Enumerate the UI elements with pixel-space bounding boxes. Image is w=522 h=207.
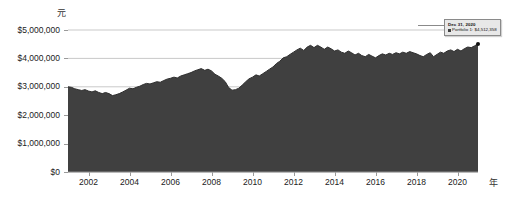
y-axis-tick-label: $2,000,000 (0, 111, 60, 120)
portfolio-area-chart: 元 年 $5,000,000$4,000,000$3,000,000$2,000… (0, 0, 522, 207)
x-axis-tick-mark (376, 172, 377, 176)
x-axis-tick-label: 2020 (438, 178, 478, 187)
x-axis-tick-label: 2008 (192, 178, 232, 187)
x-axis-unit-label: 年 (489, 178, 498, 189)
x-axis-tick-mark (335, 172, 336, 176)
y-axis-tick-label: $5,000,000 (0, 26, 60, 35)
tooltip-leader-line (418, 25, 445, 26)
x-axis-tick-label: 2014 (315, 178, 355, 187)
x-axis-tick-label: 2016 (356, 178, 396, 187)
x-axis-tick-label: 2006 (151, 178, 191, 187)
x-axis-tick-label: 2012 (274, 178, 314, 187)
x-axis-tick-mark (294, 172, 295, 176)
tooltip-series-swatch (448, 29, 451, 32)
x-axis-tick-mark (417, 172, 418, 176)
y-axis-tick-label: $3,000,000 (0, 82, 60, 91)
chart-svg (68, 30, 478, 172)
y-axis-tick-label: $0 (0, 168, 60, 177)
x-axis-tick-label: 2002 (69, 178, 109, 187)
tooltip-point-marker (476, 42, 480, 46)
x-axis-tick-mark (212, 172, 213, 176)
y-axis-tick-label: $1,000,000 (0, 139, 60, 148)
x-axis-tick-mark (130, 172, 131, 176)
tooltip-series-row: Portfolio 1: $4,512,358 (448, 27, 497, 33)
y-axis-unit-label: 元 (57, 8, 66, 19)
plot-area (68, 30, 478, 172)
x-axis-tick-mark (171, 172, 172, 176)
x-axis-tick-mark (89, 172, 90, 176)
tooltip-series-label: Portfolio 1: (452, 27, 473, 33)
series-area-fill (68, 44, 478, 172)
y-axis-tick-mark (64, 172, 68, 173)
x-axis-tick-mark (458, 172, 459, 176)
y-axis-tick-label: $4,000,000 (0, 54, 60, 63)
x-axis-tick-label: 2004 (110, 178, 150, 187)
x-axis-tick-mark (253, 172, 254, 176)
x-axis-tick-label: 2018 (397, 178, 437, 187)
tooltip-series-value: $4,512,358 (475, 27, 497, 33)
tooltip: Dec 31, 2020 Portfolio 1: $4,512,358 (444, 19, 501, 36)
x-axis-tick-label: 2010 (233, 178, 273, 187)
